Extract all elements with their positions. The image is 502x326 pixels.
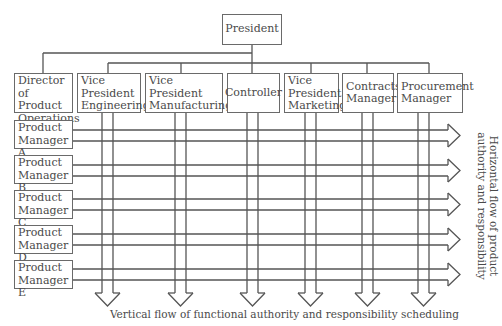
vp-engineering-box: Vice President Engineering [77, 73, 141, 113]
director-product-operations-box: Director of Product Operations [14, 73, 73, 113]
product-manager-e-box: Product Manager E [14, 260, 73, 289]
vp-manufacturing-box: Vice President Manufacturing [145, 73, 223, 113]
product-manager-b-box: Product Manager B [14, 155, 73, 184]
horizontal-flow-arrows [72, 124, 460, 286]
product-manager-d-box: Product Manager D [14, 225, 73, 254]
contracts-manager-box: Contracts Manager [342, 73, 394, 113]
horizontal-flow-caption: Horizontal flow of product authority and… [474, 131, 500, 281]
procurement-manager-box: Procurement Manager [397, 73, 463, 113]
vp-marketing-box: Vice President Marketing [284, 73, 339, 113]
product-manager-c-box: Product Manager C [14, 190, 73, 219]
vertical-flow-caption: Vertical flow of functional authority an… [110, 308, 459, 320]
president-box: President [222, 14, 282, 45]
product-manager-a-box: Product Manager A [14, 120, 73, 149]
controller-box: Controller [227, 73, 280, 113]
matrix-diagram-lines [0, 0, 502, 326]
